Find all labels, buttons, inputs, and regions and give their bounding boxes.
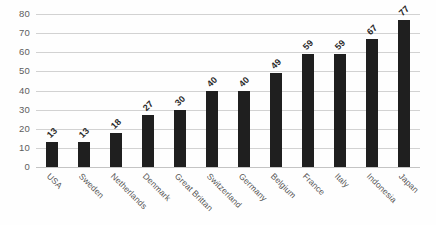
bar-slot: 40 [197,14,227,167]
bar[interactable] [398,20,410,167]
x-axis-category-label: Italy [333,171,351,189]
bar[interactable] [366,39,378,167]
x-axis-tick: Japan [389,168,419,225]
y-axis: 01020304050607080 [0,0,32,225]
bar[interactable] [142,115,154,167]
bar-slot: 49 [261,14,291,167]
y-axis-tick-label: 30 [0,104,30,115]
x-axis-category-label: USA [45,171,65,191]
x-axis-tick: Germany [229,168,259,225]
bar-value-label: 30 [173,93,187,107]
bar[interactable] [46,142,58,167]
bar[interactable] [270,73,282,167]
bar[interactable] [78,142,90,167]
x-axis-category-label: Japan [397,171,421,195]
bar[interactable] [206,91,218,168]
x-axis-tick: Switzerland [197,168,227,225]
bar-slot: 13 [69,14,99,167]
bar-value-label: 27 [141,99,155,113]
bar-slot: 40 [229,14,259,167]
x-axis: USASwedenNetherlandsDenmarkGreat Brittan… [36,168,420,225]
bar-value-label: 13 [77,126,91,140]
bar-value-label: 77 [397,3,411,17]
x-axis-tick: France [293,168,323,225]
y-axis-tick-label: 40 [0,85,30,96]
bar-value-label: 13 [45,126,59,140]
bar-slot: 13 [37,14,67,167]
x-axis-tick: Denmark [133,168,163,225]
bar[interactable] [302,54,314,167]
x-axis-tick: Netherlands [101,168,131,225]
bar[interactable] [334,54,346,167]
y-axis-tick-label: 0 [0,161,30,172]
x-axis-tick: Italy [325,168,355,225]
bar-slot: 67 [357,14,387,167]
bar[interactable] [110,133,122,167]
bar-value-label: 67 [365,22,379,36]
bar-chart: 01020304050607080 1313182730404049595967… [0,0,436,225]
y-axis-tick-label: 80 [0,8,30,19]
x-axis-tick: Indonesia [357,168,387,225]
y-axis-tick-label: 20 [0,123,30,134]
y-axis-tick-label: 60 [0,46,30,57]
bar[interactable] [238,91,250,168]
bar-value-label: 59 [301,38,315,52]
x-axis-tick: Sweden [69,168,99,225]
bar-value-label: 59 [333,38,347,52]
bar-slot: 30 [165,14,195,167]
y-axis-tick-label: 70 [0,27,30,38]
bar-slot: 77 [389,14,419,167]
x-axis-category-label: France [301,171,327,197]
x-axis-tick: USA [37,168,67,225]
bar[interactable] [174,110,186,167]
bar-value-label: 40 [205,74,219,88]
bar-value-label: 18 [109,116,123,130]
x-axis-tick: Great Brittan [165,168,195,225]
bar-value-label: 49 [269,57,283,71]
x-axis-tick: Belgium [261,168,291,225]
y-axis-tick-label: 50 [0,65,30,76]
bar-slot: 18 [101,14,131,167]
bar-slot: 59 [325,14,355,167]
bar-slot: 59 [293,14,323,167]
bar-value-label: 40 [237,74,251,88]
plot-area: 131318273040404959596777 [36,14,420,167]
y-axis-tick-label: 10 [0,142,30,153]
bar-slot: 27 [133,14,163,167]
